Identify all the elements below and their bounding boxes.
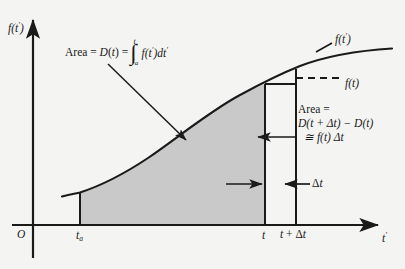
integral-lower-limit: ta — [132, 57, 138, 67]
area-integral-lead: Area = D(t) = — [65, 46, 128, 58]
x-axis-label: t′ — [382, 232, 387, 245]
strip-area-annotation: Area = D(t + Δt) − D(t) ≅ f(t) Δt — [298, 104, 373, 146]
f-of-t-label: f(t) — [345, 78, 359, 90]
integral-expression: ∫ttaf(t′)dt′ — [130, 44, 168, 62]
tick-label-t-plus-delta-t: t + Δt — [280, 229, 306, 241]
origin-label: O — [17, 229, 25, 241]
tick-label-t: t — [262, 230, 265, 242]
integral-upper-limit: t — [133, 38, 135, 46]
strip-area-line1: Area = — [298, 104, 373, 116]
calculus-area-diagram: f(t′) t′ O ta t t + Δt f(t′) f(t) Δt Are… — [0, 0, 405, 269]
curve-label: f(t′) — [335, 33, 351, 46]
strip-area-line3: ≅ f(t) Δt — [298, 132, 373, 144]
area-integral-annotation: Area = D(t) =∫ttaf(t′)dt′ — [65, 44, 168, 62]
strip-area-line2: D(t + Δt) − D(t) — [298, 118, 373, 130]
tick-label-ta: ta — [76, 230, 83, 243]
y-axis-label: f(t′) — [8, 22, 24, 35]
delta-t-label: Δt — [312, 178, 323, 190]
integrand: f(t′)dt′ — [141, 47, 167, 60]
